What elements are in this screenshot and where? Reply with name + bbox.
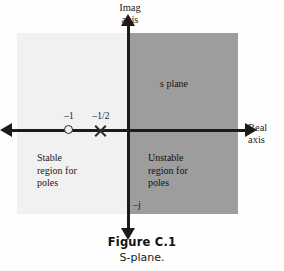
pole-marker-label: –1/2 xyxy=(88,111,114,121)
real-axis-label: Real axis xyxy=(248,122,284,145)
real-axis-label-line2: axis xyxy=(248,134,284,146)
figure-caption-subtitle: S-plane. xyxy=(0,251,284,264)
imag-axis-label-line1: Imag xyxy=(104,2,156,14)
stable-region-label-line1: Stable xyxy=(37,152,107,165)
stable-region-label-line2: region for xyxy=(37,165,107,178)
stable-region-label-line3: poles xyxy=(37,177,107,190)
s-plane-label: s plane xyxy=(160,78,188,91)
imag-axis-line xyxy=(127,22,130,232)
unstable-region-label-line1: Unstable xyxy=(148,152,222,165)
real-axis-label-line1: Real xyxy=(248,122,284,134)
negative-imag-tick-label: –j xyxy=(133,199,141,211)
stable-region-label: Stable region for poles xyxy=(37,152,107,190)
imag-axis-label-line2: axis xyxy=(104,14,156,26)
unstable-region-label-line3: poles xyxy=(148,177,222,190)
figure-caption: Figure C.1 S-plane. xyxy=(0,235,284,264)
pole-x-marker xyxy=(93,123,108,138)
figure-s-plane: Imag axis Real axis –j s plane Stable re… xyxy=(0,0,284,271)
real-axis-left-arrow-icon xyxy=(0,123,12,137)
zero-circle-marker xyxy=(64,125,73,134)
figure-caption-title: Figure C.1 xyxy=(0,235,284,249)
imag-axis-label: Imag axis xyxy=(104,2,156,25)
zero-marker-label: –1 xyxy=(58,111,80,121)
unstable-region-label: Unstable region for poles xyxy=(148,152,222,190)
unstable-region-label-line2: region for xyxy=(148,165,222,178)
